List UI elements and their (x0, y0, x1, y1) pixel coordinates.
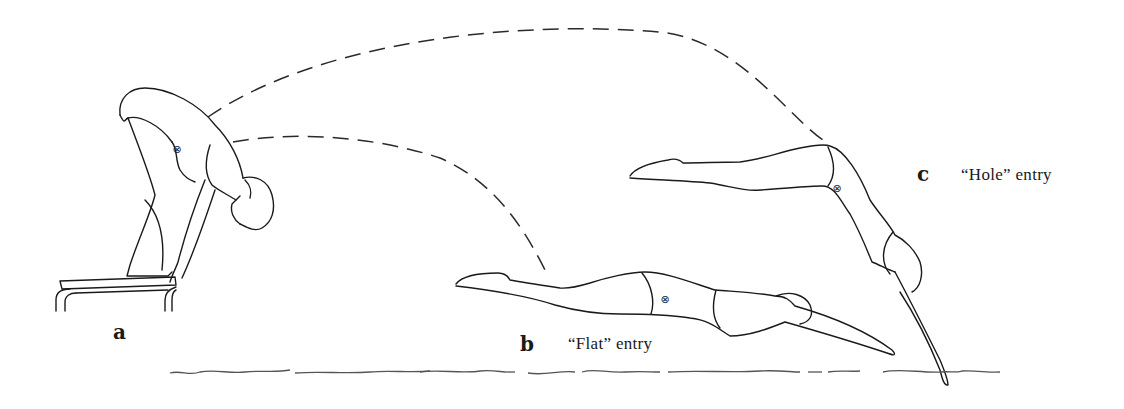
water-surface (170, 370, 1000, 374)
caption-flat-entry: “Flat” entry (568, 334, 652, 354)
center-of-gravity-marker-b: ⊗ (660, 293, 669, 306)
label-a: a (113, 320, 126, 344)
caption-hole-entry: “Hole” entry (961, 165, 1052, 185)
diver-a-start-position (120, 88, 274, 282)
center-of-gravity-marker-a: ⊗ (172, 143, 181, 156)
trajectory-arc-flat-entry (233, 136, 545, 270)
dive-entry-diagram: ⊗ ⊗ ⊗ (0, 0, 1124, 409)
diver-c-hole-entry (630, 145, 948, 385)
diagram-drawing: ⊗ ⊗ ⊗ (0, 0, 1124, 409)
label-c: c (917, 162, 929, 186)
trajectory-arc-hole-entry (208, 29, 826, 142)
label-b: b (520, 332, 534, 356)
starting-block (56, 277, 176, 311)
center-of-gravity-marker-c: ⊗ (832, 182, 841, 195)
